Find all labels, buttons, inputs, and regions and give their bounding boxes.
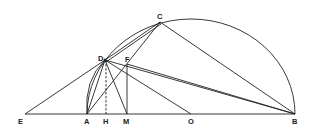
label-F: F (125, 55, 130, 64)
label-E: E (18, 117, 23, 126)
label-O: O (188, 117, 194, 126)
geometry-diagram: C D F E A H M O B (0, 0, 313, 137)
label-A: A (84, 117, 90, 126)
line-AD (87, 60, 105, 114)
label-M: M (123, 117, 129, 126)
label-C: C (157, 12, 163, 21)
semicircle-AB (87, 19, 295, 114)
label-D: D (98, 54, 104, 63)
line-DO (105, 60, 191, 114)
label-B: B (292, 117, 298, 126)
label-H: H (103, 117, 108, 126)
line-DC (105, 22, 160, 60)
line-DC-2 (106, 24, 161, 62)
point-D (104, 59, 107, 62)
line-CB (160, 22, 295, 114)
line-FB (127, 64, 295, 114)
